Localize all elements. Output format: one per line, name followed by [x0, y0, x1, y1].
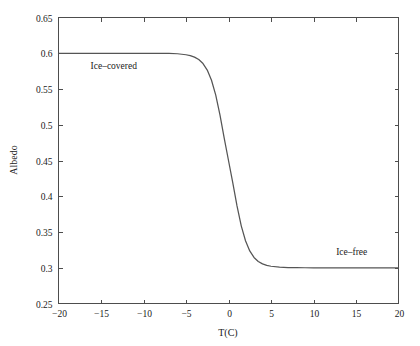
- x-tick-label: 5: [269, 309, 274, 319]
- y-tick-label: 0.25: [36, 300, 53, 310]
- x-axis-tick-labels: −20−15−10−505101520: [52, 309, 404, 319]
- y-tick-label: 0.6: [41, 49, 53, 59]
- x-axis-ticks-top: [102, 18, 357, 22]
- y-tick-label: 0.55: [36, 85, 53, 95]
- curve-annotations: Ice–coveredIce–free: [91, 61, 368, 257]
- y-tick-label: 0.4: [41, 192, 53, 202]
- y-axis-ticks-left: [59, 54, 63, 269]
- x-tick-label: 10: [310, 309, 320, 319]
- x-tick-label: −20: [52, 309, 67, 319]
- x-axis-title: T(C): [218, 327, 237, 339]
- x-tick-label: −15: [94, 309, 109, 319]
- x-tick-label: −5: [181, 309, 191, 319]
- x-tick-label: 0: [227, 309, 232, 319]
- curve-annotation-label: Ice–covered: [91, 61, 138, 71]
- y-axis-ticks-right: [395, 54, 399, 269]
- curve-annotation-label: Ice–free: [336, 247, 367, 257]
- y-tick-label: 0.35: [36, 228, 53, 238]
- y-axis-tick-labels: 0.250.30.350.40.450.50.550.60.65: [36, 14, 53, 310]
- x-tick-label: 15: [352, 309, 362, 319]
- chart-canvas: −20−15−10−505101520 0.250.30.350.40.450.…: [0, 0, 420, 346]
- x-tick-label: 20: [395, 309, 405, 319]
- x-tick-label: −10: [137, 309, 152, 319]
- y-tick-label: 0.5: [41, 121, 53, 131]
- y-axis-title: Albedo: [8, 145, 19, 174]
- y-tick-label: 0.45: [36, 157, 53, 167]
- y-tick-label: 0.3: [41, 264, 53, 274]
- x-axis-ticks-bottom: [102, 300, 357, 304]
- y-tick-label: 0.65: [36, 14, 53, 24]
- albedo-curve: [59, 53, 399, 268]
- albedo-temperature-chart: −20−15−10−505101520 0.250.30.350.40.450.…: [0, 0, 420, 346]
